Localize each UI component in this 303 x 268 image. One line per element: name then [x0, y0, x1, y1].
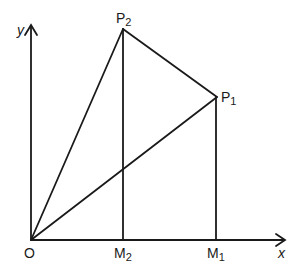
segment-O-P2 [31, 29, 123, 240]
segment-P2-P1 [123, 29, 217, 97]
point-P1-subscript: 1 [230, 95, 236, 107]
point-P2-subscript: 2 [125, 16, 131, 28]
x-axis-label: x [277, 245, 286, 261]
point-P1-label: P1 [221, 89, 236, 107]
point-M2-letter: M [114, 245, 126, 261]
point-M1-subscript: 1 [219, 251, 225, 263]
point-M2-label: M2 [114, 245, 132, 263]
segment-O-P1 [31, 97, 217, 240]
point-M1-label: M1 [207, 245, 225, 263]
point-M2-subscript: 2 [126, 251, 132, 263]
point-P1-letter: P [221, 89, 230, 105]
y-axis-label: y [16, 22, 25, 38]
point-M1-letter: M [207, 245, 219, 261]
origin-label: O [24, 245, 35, 261]
point-P2-letter: P [116, 10, 125, 26]
point-P2-label: P2 [116, 10, 131, 28]
vector-diagram: y x O P2 P1 M2 M1 [0, 0, 303, 268]
